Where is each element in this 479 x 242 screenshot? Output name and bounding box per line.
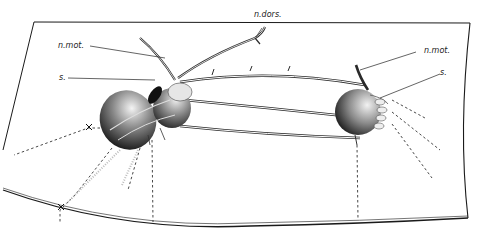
label-motor-nerve-right: n.mot. bbox=[424, 46, 450, 55]
dotted-shading bbox=[65, 150, 138, 205]
cross-markers bbox=[58, 124, 92, 210]
left-ganglion bbox=[90, 81, 192, 159]
label-dorsal-nerve: n.dors. bbox=[254, 10, 282, 19]
diagram-canvas: n.dors. n.mot. s. n.mot. s. bbox=[0, 0, 479, 242]
label-motor-nerve-left: n.mot. bbox=[58, 41, 84, 50]
label-spiracle-right: s. bbox=[440, 68, 447, 77]
label-spiracle-left: s. bbox=[59, 73, 66, 82]
